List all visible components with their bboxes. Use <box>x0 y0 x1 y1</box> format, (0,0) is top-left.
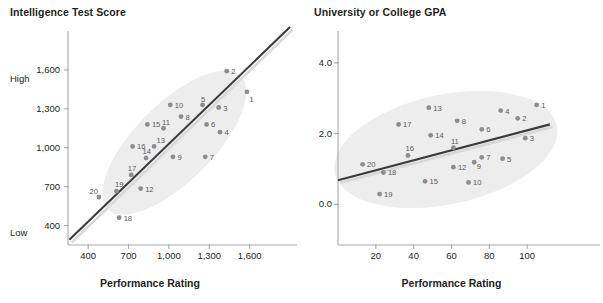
data-point <box>534 103 539 108</box>
data-point-label: 13 <box>433 105 441 113</box>
data-point-label: 17 <box>403 121 411 129</box>
data-point <box>479 127 484 132</box>
x-axis-title-gpa: Performance Rating <box>300 277 603 289</box>
data-point <box>500 156 505 161</box>
data-point <box>171 154 176 159</box>
data-point-label: 4 <box>505 108 509 116</box>
data-point-label: 14 <box>435 132 443 140</box>
data-point <box>145 122 150 127</box>
data-point-label: 18 <box>124 215 132 223</box>
data-point-label: 20 <box>367 161 375 169</box>
data-point <box>455 118 460 123</box>
data-point <box>204 122 209 127</box>
data-point-label: 2 <box>231 68 235 76</box>
data-point <box>179 114 184 119</box>
data-point <box>381 170 386 175</box>
data-point-label: 4 <box>225 129 229 137</box>
data-point <box>479 155 484 160</box>
data-point-label: 5 <box>201 96 205 104</box>
data-point <box>523 136 528 141</box>
data-point-label: 18 <box>388 169 396 177</box>
chart-panel-intelligence: Intelligence Test Score 4007001,0001,300… <box>0 0 300 303</box>
data-point-label: 11 <box>451 138 459 146</box>
x-axis-title-intelligence: Performance Rating <box>0 277 300 289</box>
data-point-label: 5 <box>507 156 511 164</box>
data-point <box>428 133 433 138</box>
y-tick-label: 700 <box>44 182 60 192</box>
data-point <box>466 180 471 185</box>
data-point <box>360 162 365 167</box>
data-point <box>224 69 229 74</box>
data-point <box>114 189 119 194</box>
data-point-label: 16 <box>405 145 413 153</box>
data-point-label: 10 <box>175 102 183 110</box>
data-point-label: 19 <box>384 191 392 199</box>
data-point-label: 7 <box>210 154 214 162</box>
data-point-label: 9 <box>177 154 181 162</box>
data-point-label: 8 <box>462 118 466 126</box>
data-point <box>377 192 382 197</box>
data-point <box>168 103 173 108</box>
y-tick-label: 1,300 <box>36 104 60 114</box>
data-point-label: 15 <box>430 178 438 186</box>
data-point <box>130 144 135 149</box>
data-point-label: 8 <box>186 114 190 122</box>
y-tick-label: 4.0 <box>319 58 332 68</box>
data-point-label: 16 <box>137 143 145 151</box>
y-tick-label: 2.0 <box>319 129 332 139</box>
data-point <box>498 108 503 113</box>
data-point <box>426 105 431 110</box>
y-tick-label: 0.0 <box>319 199 332 209</box>
data-point-label: 12 <box>145 186 153 194</box>
x-tick-label: 100 <box>497 251 557 261</box>
trend-line-shadow <box>72 30 293 243</box>
data-point-label: 20 <box>89 188 97 196</box>
data-point <box>451 145 456 150</box>
data-point <box>203 154 208 159</box>
regression-trend-line <box>69 27 290 240</box>
data-point <box>515 116 520 121</box>
data-point-label: 2 <box>522 115 526 123</box>
data-point-label: 3 <box>530 135 534 143</box>
data-point <box>117 215 122 220</box>
data-point <box>144 156 149 161</box>
y-tick-label: 400 <box>44 221 60 231</box>
data-point-label: 13 <box>157 137 165 145</box>
data-point <box>138 186 143 191</box>
data-point <box>216 105 221 110</box>
data-point-label: 9 <box>477 163 481 171</box>
data-point <box>245 90 250 95</box>
data-point-label: 1 <box>541 102 545 110</box>
data-point-label: 7 <box>486 154 490 162</box>
data-point <box>406 153 411 158</box>
data-point <box>451 165 456 170</box>
data-point-label: 6 <box>211 121 215 129</box>
y-tick-label: 1,600 <box>36 65 60 75</box>
scatter-plot-figure: Intelligence Test Score 4007001,0001,300… <box>0 0 603 303</box>
data-point-label: 11 <box>162 119 170 127</box>
data-point-label: 17 <box>128 165 136 173</box>
data-point <box>396 122 401 127</box>
data-point-label: 12 <box>458 164 466 172</box>
x-tick-label: 1,600 <box>220 251 280 261</box>
chart-panel-gpa: University or College GPA 0.02.04.020406… <box>300 0 603 303</box>
data-point-label: 3 <box>223 105 227 113</box>
data-point-label: 1 <box>249 96 253 104</box>
data-point <box>218 130 223 135</box>
data-cloud-ellipse <box>323 72 568 226</box>
data-point-label: 19 <box>115 181 123 189</box>
data-point-label: 15 <box>152 121 160 129</box>
data-point-label: 10 <box>473 179 481 187</box>
y-axis-high-label: High <box>10 74 30 84</box>
data-point <box>129 173 134 178</box>
y-tick-label: 1,000 <box>36 143 60 153</box>
data-point <box>423 179 428 184</box>
data-point-label: 6 <box>486 126 490 134</box>
y-axis-low-label: Low <box>10 228 27 238</box>
